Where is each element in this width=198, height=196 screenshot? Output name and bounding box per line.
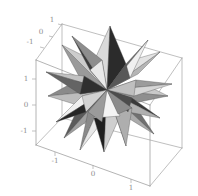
tick-labels-y-axis: -1 0 1 [26, 15, 54, 46]
tick-label-x-0: 0 [91, 169, 96, 178]
tick-label-z-0: 0 [24, 100, 29, 109]
tick-label-y-neg1: -1 [26, 37, 33, 46]
tick-label-y-0: 0 [39, 27, 44, 36]
box-edge-bottom-left-receding [36, 118, 62, 145]
tick-label-x-1: 1 [129, 183, 134, 192]
tick-label-z-neg1: -1 [20, 126, 27, 135]
tick-labels-x-axis: -1 0 1 [51, 156, 133, 192]
polyhedron-small-stellated-dodecahedron [46, 26, 172, 152]
box-edge-bottom-right-receding [150, 148, 182, 186]
tick-label-x-neg1: -1 [51, 156, 58, 165]
tick-mark-y-1 [58, 24, 62, 25]
tick-label-y-1: 1 [50, 15, 55, 24]
tick-mark-y-0 [49, 36, 53, 37]
tick-mark-y-neg1 [40, 47, 44, 48]
plot-canvas: -1 0 1 1 0 -1 -1 0 1 [0, 0, 198, 196]
box-edge-back-top [62, 24, 182, 58]
tick-labels-z-axis: 1 0 -1 [20, 74, 28, 135]
plot-figure: -1 0 1 1 0 -1 -1 0 1 [0, 0, 198, 196]
tick-label-z-1: 1 [24, 74, 29, 83]
